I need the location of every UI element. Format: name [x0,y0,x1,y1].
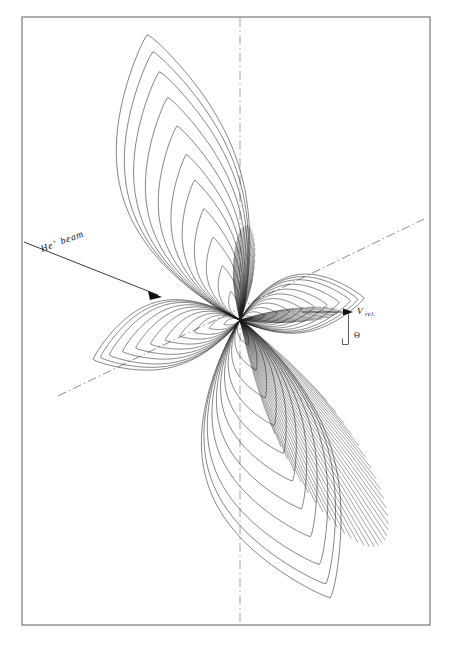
ray-line [240,320,384,499]
he-beam-charge-superscript: + [51,237,58,245]
vrel-arrowhead [343,308,353,315]
he-beam-label: He+beam [38,227,86,254]
lobe-upper-left-lobe [116,35,249,320]
lobe-left-lobe [93,300,240,371]
he-beam-arrowhead [148,291,162,300]
ray-line [240,320,338,528]
contour-level [134,72,248,320]
lobe-right-lobe [240,274,364,333]
ray-line [240,320,382,544]
vrel-label: Vrel. [357,306,376,317]
ray-line [240,320,316,503]
ray-line [240,320,387,536]
vrel-annotation: Vrel. Θ [302,306,376,345]
contour-level [171,155,244,320]
scattering-contour-plot: He+beam Vrel. Θ [0,0,451,645]
vrel-symbol: V [357,306,364,316]
ray-bundle-down-right-dense-rays [240,320,388,547]
ray-line [240,320,374,547]
contour-level [204,320,336,584]
vrel-subscript: rel. [365,310,375,317]
he-beam-word: beam [59,228,86,247]
contour-level [124,52,248,320]
he-beam-annotation: He+beam [24,227,162,300]
figure-root: He+beam Vrel. Θ [0,0,451,645]
ray-line [240,320,379,546]
contour-level [240,274,364,333]
contour-lobes-layer [93,35,388,598]
figure-frame [22,17,430,625]
angle-theta-label: Θ [354,331,360,340]
right-angle-mark [343,339,349,345]
contour-level [182,180,243,320]
lobe-lower-right-lobe [201,320,341,598]
contour-level [145,97,246,320]
